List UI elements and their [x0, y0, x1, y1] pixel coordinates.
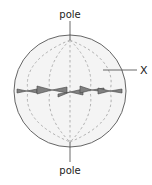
- bottom-pole-label: pole: [59, 165, 80, 176]
- top-pole-label: pole: [59, 9, 80, 20]
- x-label: X: [140, 64, 148, 77]
- mitosis-diagram: pole pole X: [0, 0, 152, 185]
